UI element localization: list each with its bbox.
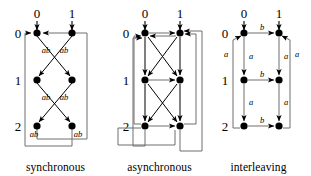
inter-node-1-0 bbox=[240, 76, 247, 83]
sync-edge-label-4: ab bbox=[60, 92, 69, 102]
inter-label-a-right-12: a bbox=[284, 97, 288, 107]
async-wrap-edge-20-to-00-outer bbox=[133, 38, 145, 146]
inter-node-1-1 bbox=[275, 76, 282, 83]
async-node-0-1 bbox=[176, 29, 183, 36]
panel-asynchronous: 0 1 0 1 2 bbox=[118, 6, 202, 151]
diagram-canvas: 0 1 0 1 2 ab ab ab ab ab ab 0 1 bbox=[0, 0, 311, 176]
inter-col-label-0: 0 bbox=[241, 6, 248, 21]
sync-node-1-0 bbox=[33, 76, 40, 83]
async-col-label-0: 0 bbox=[142, 6, 149, 21]
sync-row-label-0: 0 bbox=[15, 26, 22, 41]
sync-edge-01-to-10 bbox=[39, 36, 72, 76]
inter-node-2-0 bbox=[240, 122, 247, 129]
sync-edge-label-5: ab bbox=[30, 129, 39, 139]
sync-row-label-2: 2 bbox=[15, 119, 22, 134]
sync-edge-10-to-21 bbox=[37, 83, 70, 122]
inter-row-label-0: 0 bbox=[222, 26, 229, 41]
async-row-label-0: 0 bbox=[123, 26, 130, 41]
async-node-0-0 bbox=[141, 29, 148, 36]
inter-node-2-1 bbox=[275, 122, 282, 129]
sync-edge-11-to-20 bbox=[39, 83, 72, 122]
async-node-1-0 bbox=[141, 76, 148, 83]
inter-label-a-outer-left: a bbox=[224, 49, 228, 59]
async-node-2-0 bbox=[141, 122, 148, 129]
sync-node-1-1 bbox=[68, 76, 75, 83]
inter-row-label-2: 2 bbox=[222, 119, 229, 134]
async-node-1-1 bbox=[176, 76, 183, 83]
caption-asynchronous: asynchronous bbox=[104, 161, 215, 173]
inter-node-0-1 bbox=[275, 29, 282, 36]
inter-row-label-1: 1 bbox=[222, 73, 229, 88]
async-node-2-1 bbox=[176, 122, 183, 129]
sync-col-label-1: 1 bbox=[69, 6, 76, 21]
inter-wrap-edge-a-left bbox=[233, 36, 241, 128]
sync-col-label-0: 0 bbox=[34, 6, 41, 21]
inter-label-a-left-01: a bbox=[249, 51, 253, 61]
caption-interleaving: interleaving bbox=[206, 161, 311, 173]
inter-node-0-0 bbox=[240, 29, 247, 36]
inter-label-b-row0: b bbox=[260, 22, 264, 32]
sync-edge-label-3: ab bbox=[42, 92, 51, 102]
sync-edge-00-to-11 bbox=[37, 36, 70, 76]
sync-node-0-0 bbox=[33, 29, 40, 36]
sync-edge-label-2: ab bbox=[60, 45, 69, 55]
inter-label-a-right-01: a bbox=[284, 51, 288, 61]
figure-three-transition-systems: 0 1 0 1 2 ab ab ab ab ab ab 0 1 bbox=[0, 0, 311, 176]
async-row-label-1: 1 bbox=[123, 73, 130, 88]
sync-node-0-1 bbox=[68, 29, 75, 36]
inter-label-b-row2: b bbox=[260, 115, 264, 125]
async-row-label-2: 2 bbox=[123, 119, 130, 134]
panel-synchronous: 0 1 0 1 2 ab ab ab ab ab ab bbox=[15, 6, 87, 146]
inter-wrap-edge-a-right bbox=[282, 36, 290, 128]
panel-interleaving: 0 1 0 1 2 b b b a a a a a a bbox=[222, 6, 299, 134]
inter-label-b-row1: b bbox=[260, 69, 264, 79]
sync-edge-label-1: ab bbox=[42, 45, 51, 55]
sync-row-label-1: 1 bbox=[15, 73, 22, 88]
inter-label-a-left-12: a bbox=[249, 97, 253, 107]
async-col-label-1: 1 bbox=[177, 6, 184, 21]
async-wrap-edge-21-to-01-outer bbox=[180, 31, 202, 151]
inter-label-a-outer-right: a bbox=[295, 49, 299, 59]
async-wrap-edge-21-to-01 bbox=[184, 34, 196, 124]
caption-synchronous: synchronous bbox=[0, 161, 111, 173]
inter-col-label-1: 1 bbox=[276, 6, 283, 21]
sync-edge-label-6: ab bbox=[74, 129, 83, 139]
async-wrap-edge-20-to-00 bbox=[134, 36, 141, 124]
